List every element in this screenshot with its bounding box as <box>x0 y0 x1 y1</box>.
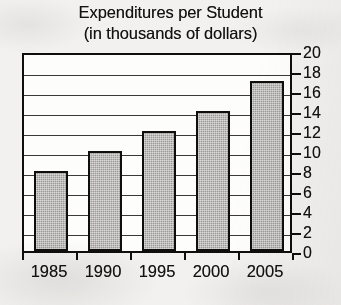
y-tick-8 <box>292 173 301 175</box>
x-axis-label-1985: 1985 <box>22 262 76 280</box>
y-axis-label-4: 4 <box>303 205 312 221</box>
y-axis-label-12: 12 <box>303 125 321 141</box>
y-tick-4 <box>292 213 301 215</box>
bar-2005 <box>250 81 285 251</box>
expenditures-per-student-bar-chart: Expenditures per Student (in thousands o… <box>0 0 341 305</box>
y-axis-label-8: 8 <box>303 165 312 181</box>
x-tick-3 <box>184 253 186 260</box>
y-axis-label-6: 6 <box>303 185 312 201</box>
bar-1985 <box>34 171 69 251</box>
x-axis-label-2000: 2000 <box>184 262 238 280</box>
gridline-18 <box>24 75 290 76</box>
y-axis-label-18: 18 <box>303 65 321 81</box>
x-axis-label-1995: 1995 <box>130 262 184 280</box>
plot-inner <box>24 55 290 251</box>
x-tick-4 <box>238 253 240 260</box>
plot-area <box>22 53 292 253</box>
y-axis-label-2: 2 <box>303 225 312 241</box>
chart-title-line-1: Expenditures per Student <box>0 2 341 23</box>
y-tick-20 <box>292 53 301 55</box>
y-tick-6 <box>292 193 301 195</box>
bar-1995 <box>142 131 177 251</box>
y-tick-18 <box>292 73 301 75</box>
y-tick-2 <box>292 233 301 235</box>
y-tick-14 <box>292 113 301 115</box>
y-axis-label-14: 14 <box>303 105 321 121</box>
y-tick-16 <box>292 93 301 95</box>
x-axis-label-2005: 2005 <box>238 262 292 280</box>
y-axis: 20181614121086420 <box>292 53 341 253</box>
x-tick-2 <box>130 253 132 260</box>
x-tick-5 <box>292 253 294 260</box>
chart-title-line-2: (in thousands of dollars) <box>0 23 341 44</box>
x-tick-0 <box>22 253 24 260</box>
y-tick-12 <box>292 133 301 135</box>
y-axis-label-0: 0 <box>303 245 312 261</box>
y-axis-label-16: 16 <box>303 85 321 101</box>
y-axis-label-20: 20 <box>303 45 321 61</box>
bar-1990 <box>88 151 123 251</box>
x-tick-1 <box>76 253 78 260</box>
y-tick-10 <box>292 153 301 155</box>
chart-title: Expenditures per Student (in thousands o… <box>0 2 341 44</box>
y-axis-label-10: 10 <box>303 145 321 161</box>
bar-2000 <box>196 111 231 251</box>
x-axis-label-1990: 1990 <box>76 262 130 280</box>
